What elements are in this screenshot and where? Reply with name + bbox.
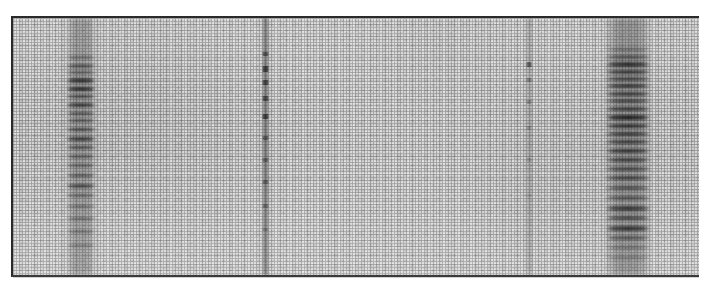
gel-film-background <box>13 18 699 275</box>
gel-band <box>66 194 96 197</box>
gel-band <box>605 84 651 88</box>
gel-lane-1 <box>66 18 96 275</box>
gel-band <box>526 100 532 104</box>
gel-band <box>262 114 269 119</box>
gel-band <box>66 64 96 68</box>
gel-band <box>66 184 96 188</box>
gel-band <box>66 164 96 167</box>
gel-band <box>262 66 269 72</box>
gel-band <box>66 137 96 141</box>
gel-band <box>66 217 96 220</box>
gel-band <box>66 71 96 74</box>
gel-band <box>262 136 269 140</box>
gel-lane-2 <box>262 18 269 275</box>
gel-band <box>262 80 269 85</box>
gel-band <box>605 216 651 220</box>
gel-band <box>605 124 651 128</box>
gel-band <box>262 52 269 56</box>
gel-band <box>262 228 269 231</box>
gel-band <box>605 226 651 231</box>
gel-band <box>262 96 269 101</box>
gel-band <box>605 149 651 153</box>
gel-band <box>66 205 96 208</box>
gel-band <box>526 126 532 130</box>
gel-band <box>66 128 96 131</box>
gel-band <box>605 256 651 259</box>
gel-figure <box>0 0 704 298</box>
gel-band <box>66 230 96 233</box>
gel-band <box>605 48 651 51</box>
gel-band <box>605 132 651 136</box>
lane-smear <box>526 18 532 275</box>
gel-band <box>605 55 651 59</box>
gel-band <box>605 206 651 211</box>
gel-band <box>262 180 269 184</box>
gel-band <box>605 92 651 96</box>
gel-band <box>262 158 269 162</box>
gel-band <box>526 194 532 197</box>
gel-band <box>66 155 96 158</box>
gel-band <box>66 119 96 122</box>
gel-band <box>605 186 651 190</box>
gel-band <box>605 236 651 240</box>
gel-lane-3 <box>526 18 532 275</box>
gel-band <box>66 146 96 149</box>
gel-band <box>605 246 651 249</box>
gel-band <box>66 87 96 91</box>
gel-band <box>526 62 532 67</box>
lane-smear <box>262 18 269 275</box>
gel-band <box>526 78 532 82</box>
gel-band <box>66 78 96 83</box>
plate-drop-shadow <box>13 277 699 278</box>
gel-band <box>605 70 651 74</box>
gel-lane-4 <box>605 18 651 275</box>
gel-band <box>605 196 651 200</box>
gel-band <box>66 112 96 115</box>
gel-band <box>66 56 96 59</box>
gel-band <box>605 176 651 180</box>
gel-band <box>526 158 532 162</box>
gel-band <box>605 158 651 162</box>
gel-band <box>605 62 651 67</box>
gel-plate <box>11 16 699 277</box>
gel-band <box>66 95 96 98</box>
gel-band <box>605 115 651 120</box>
gel-band <box>66 174 96 177</box>
gel-band <box>605 77 651 81</box>
gel-band <box>262 204 269 208</box>
gel-band <box>605 99 651 103</box>
gel-band <box>605 167 651 171</box>
gel-band <box>66 103 96 107</box>
gel-band <box>605 140 651 144</box>
gel-band <box>66 244 96 247</box>
gel-band <box>605 107 651 111</box>
